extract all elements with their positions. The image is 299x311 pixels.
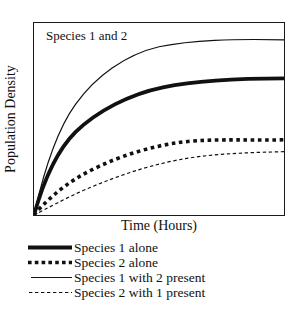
thin-dashed-line-icon (26, 285, 74, 300)
chart-legend: Species 1 alone Species 2 alone Species … (26, 240, 292, 300)
legend-label: Species 2 with 1 present (74, 285, 205, 300)
chart-curves (34, 23, 284, 215)
plot-area: Species 1 and 2 (33, 22, 285, 216)
legend-label: Species 1 with 2 present (74, 270, 205, 285)
curve-species-1-with-2-present (34, 39, 284, 215)
legend-item-species-2-alone: Species 2 alone (26, 255, 292, 270)
curve-species-2-with-1-present (34, 152, 284, 215)
legend-label: Species 1 alone (74, 240, 158, 255)
thick-dotted-line-icon (26, 255, 74, 270)
x-axis-title: Time (Hours) (33, 218, 285, 234)
legend-item-species-1-alone: Species 1 alone (26, 240, 292, 255)
thin-solid-line-icon (26, 270, 74, 285)
y-axis-title: Population Density (0, 22, 22, 216)
population-density-chart: Species 1 and 2 Population Density Time … (0, 0, 299, 311)
plot-annotation-species-1-and-2: Species 1 and 2 (46, 29, 127, 43)
legend-item-species-2-with-1-present: Species 2 with 1 present (26, 285, 292, 300)
thick-solid-line-icon (26, 240, 74, 255)
legend-item-species-1-with-2-present: Species 1 with 2 present (26, 270, 292, 285)
curve-species-2-alone (34, 140, 284, 215)
legend-label: Species 2 alone (74, 255, 158, 270)
